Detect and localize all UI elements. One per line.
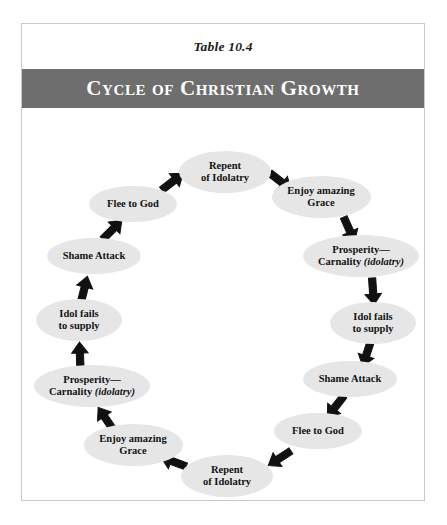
- cycle-node: Flee to God: [89, 186, 177, 222]
- cycle-node: Flee to God: [274, 413, 362, 449]
- cycle-node: Idol failsto supply: [330, 302, 416, 344]
- cycle-node-label: Prosperity—Carnality (idolatry): [49, 374, 135, 398]
- cycle-node-label: Flee to God: [107, 198, 159, 210]
- cycle-canvas: Repentof IdolatryEnjoy amazingGraceProsp…: [22, 108, 424, 500]
- page-title: Cycle of Christian Growth: [86, 76, 359, 101]
- page-root: Table 10.4 Cycle of Christian Growth Rep…: [0, 0, 447, 525]
- cycle-node-label: Enjoy amazingGrace: [287, 185, 354, 209]
- table-frame: Table 10.4 Cycle of Christian Growth Rep…: [21, 23, 425, 501]
- cycle-node: Enjoy amazingGrace: [272, 176, 371, 218]
- cycle-node-label: Repentof Idolatry: [201, 160, 249, 184]
- cycle-node-label: Shame Attack: [63, 250, 126, 262]
- cycle-node: Prosperity—Carnality (idolatry): [34, 365, 150, 407]
- cycle-node-label: Repentof Idolatry: [203, 464, 251, 488]
- cycle-diagram: Repentof IdolatryEnjoy amazingGraceProsp…: [22, 108, 424, 500]
- cycle-node: Shame Attack: [303, 361, 397, 397]
- cycle-node-label-emphasis: (idolatry): [95, 386, 135, 397]
- table-caption-row: Table 10.4: [22, 24, 424, 69]
- cycle-node: Shame Attack: [47, 238, 141, 274]
- cycle-node: Repentof Idolatry: [179, 151, 271, 193]
- cycle-node-label: Flee to God: [292, 425, 344, 437]
- cycle-node-label: Enjoy amazingGrace: [99, 433, 166, 457]
- cycle-node: Prosperity—Carnality (idolatry): [303, 235, 419, 277]
- cycle-node-label: Idol failsto supply: [58, 308, 99, 332]
- cycle-node: Idol failsto supply: [36, 299, 122, 341]
- cycle-node-label: Prosperity—Carnality (idolatry): [318, 244, 404, 268]
- cycle-node-label: Idol failsto supply: [352, 311, 393, 335]
- cycle-node: Repentof Idolatry: [181, 455, 273, 497]
- cycle-node-label: Shame Attack: [319, 373, 382, 385]
- table-caption: Table 10.4: [193, 39, 252, 55]
- cycle-node-label-emphasis: (idolatry): [364, 256, 404, 267]
- cycle-node: Enjoy amazingGrace: [84, 424, 183, 466]
- header-band: Cycle of Christian Growth: [22, 69, 424, 108]
